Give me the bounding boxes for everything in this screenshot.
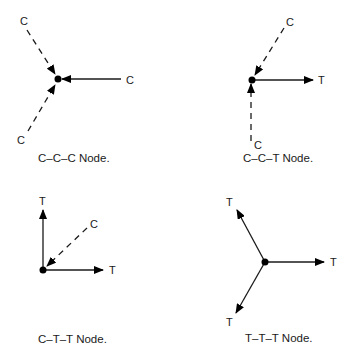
node-point bbox=[249, 77, 256, 84]
member-compression-upper-right bbox=[47, 228, 87, 266]
panel-ctt-node: T C T C–T–T Node. bbox=[38, 195, 116, 345]
panel-ccc-node: C C C C–C–C Node. bbox=[17, 15, 134, 164]
panel-ttt-node: T T T T–T–T Node. bbox=[226, 196, 337, 344]
node-point bbox=[55, 76, 62, 83]
panel-cct-node: C T C C–C–T Node. bbox=[243, 16, 325, 164]
member-compression-lower-left bbox=[28, 85, 55, 131]
panel-caption: T–T–T Node. bbox=[245, 332, 313, 344]
node-point bbox=[40, 267, 47, 274]
panel-caption: C–C–C Node. bbox=[38, 152, 110, 164]
member-label: C bbox=[126, 74, 134, 86]
member-tension-lower-left bbox=[236, 262, 265, 313]
member-label: T bbox=[109, 264, 116, 276]
panel-caption: C–C–T Node. bbox=[243, 152, 313, 164]
member-compression-upper-left bbox=[27, 30, 55, 74]
node-point bbox=[262, 259, 269, 266]
member-tension-upper-left bbox=[237, 210, 265, 262]
member-compression-upper-right bbox=[255, 28, 284, 75]
truss-node-diagram: C C C C–C–C Node. C T C C–C–T Node. T C … bbox=[0, 0, 358, 359]
member-label: T bbox=[318, 74, 325, 86]
member-label: T bbox=[39, 195, 46, 207]
member-label: C bbox=[90, 218, 98, 230]
member-label: C bbox=[254, 139, 262, 151]
member-label: T bbox=[330, 256, 337, 268]
member-label: T bbox=[226, 316, 233, 328]
member-label: T bbox=[226, 196, 233, 208]
panel-caption: C–T–T Node. bbox=[38, 333, 107, 345]
member-label: C bbox=[20, 15, 28, 27]
member-label: C bbox=[17, 134, 25, 146]
member-label: C bbox=[286, 16, 294, 28]
